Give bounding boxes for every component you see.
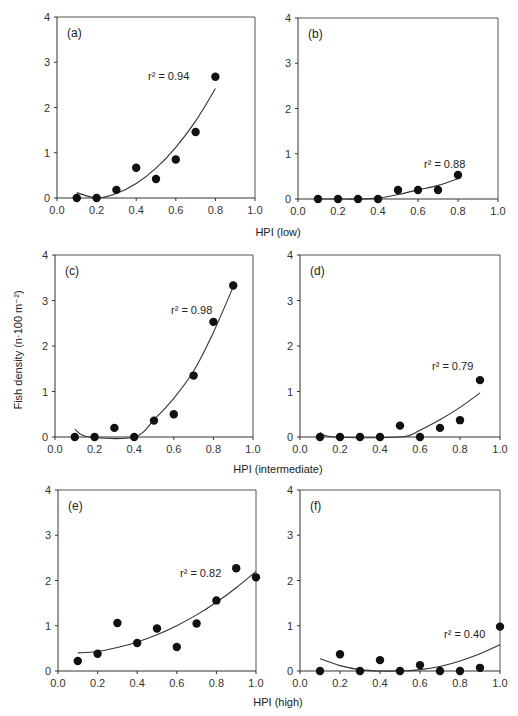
x-tick-label: 0.8: [452, 677, 467, 689]
y-tick-label: 2: [42, 340, 48, 352]
data-point: [374, 195, 382, 203]
data-point: [73, 194, 81, 202]
y-axis-label: Fish density (n·100 m⁻²): [12, 290, 24, 409]
data-point: [191, 128, 199, 136]
x-tick-label: 0.8: [208, 204, 223, 216]
y-tick-label: 3: [285, 57, 291, 69]
x-tick-label: 0.6: [410, 205, 425, 217]
fit-curve: [320, 393, 480, 438]
x-tick-label: 0.4: [372, 443, 387, 455]
x-tick-label: 0.4: [127, 443, 142, 455]
x-tick-label: 0.0: [50, 677, 65, 689]
data-point: [416, 661, 424, 669]
panel-f: 0.00.20.40.60.81.001234(f)r² = 0.40: [287, 484, 508, 689]
x-tick-label: 0.8: [206, 443, 221, 455]
x-tick-label: 0.2: [330, 205, 345, 217]
x-tick-label: 0.6: [412, 677, 427, 689]
y-tick-label: 3: [44, 56, 50, 68]
x-tick-label: 1.0: [247, 204, 262, 216]
y-tick-label: 2: [287, 340, 293, 352]
panel-b: 0.00.20.40.60.81.001234(b)r² = 0.88: [285, 12, 506, 217]
data-point: [133, 639, 141, 647]
x-tick-label: 0.6: [169, 677, 184, 689]
y-tick-label: 2: [44, 102, 50, 114]
y-tick-label: 1: [287, 386, 293, 398]
r-squared-label: r² = 0.40: [444, 628, 485, 640]
data-point: [454, 171, 462, 179]
y-tick-label: 1: [42, 386, 48, 398]
y-tick-label: 2: [287, 575, 293, 587]
data-point: [211, 73, 219, 81]
panel-e: 0.00.20.40.60.81.001234(e)r² = 0.82: [45, 484, 264, 689]
data-point: [336, 650, 344, 658]
y-tick-label: 1: [45, 620, 51, 632]
r-squared-label: r² = 0.82: [180, 567, 221, 579]
x-tick-label: 0.0: [49, 204, 64, 216]
y-tick-label: 0: [44, 192, 50, 204]
data-point: [396, 667, 404, 675]
data-point: [434, 186, 442, 194]
y-tick-label: 2: [285, 103, 291, 115]
r-squared-label: r² = 0.98: [171, 304, 212, 316]
data-point: [132, 163, 140, 171]
plot-frame: [58, 490, 256, 671]
x-tick-label: 0.4: [372, 677, 387, 689]
x-tick-label: 1.0: [490, 205, 505, 217]
data-point: [436, 424, 444, 432]
y-tick-label: 4: [287, 249, 293, 261]
data-point: [173, 643, 181, 651]
x-tick-label: 0.8: [450, 205, 465, 217]
x-axis-label-low: HPI (low): [255, 226, 300, 238]
data-point: [496, 622, 504, 630]
y-tick-label: 1: [285, 148, 291, 160]
fit-curve: [320, 645, 500, 671]
x-tick-label: 0.0: [47, 443, 62, 455]
x-tick-label: 0.4: [130, 677, 145, 689]
panel-d: 0.00.20.40.60.81.001234(d)r² = 0.79: [287, 249, 508, 455]
data-point: [172, 155, 180, 163]
plot-frame: [55, 255, 253, 437]
y-tick-label: 3: [287, 529, 293, 541]
data-point: [354, 195, 362, 203]
x-tick-label: 0.2: [332, 443, 347, 455]
x-tick-label: 0.4: [370, 205, 385, 217]
x-tick-label: 0.2: [332, 677, 347, 689]
data-point: [153, 624, 161, 632]
x-tick-label: 1.0: [492, 443, 507, 455]
data-point: [376, 433, 384, 441]
data-point: [112, 186, 120, 194]
data-point: [316, 667, 324, 675]
data-point: [74, 657, 82, 665]
x-axis-label-intermediate: HPI (intermediate): [233, 463, 322, 475]
x-tick-label: 0.2: [87, 443, 102, 455]
x-tick-label: 0.2: [89, 204, 104, 216]
data-point: [90, 433, 98, 441]
plot-frame: [298, 18, 498, 199]
data-point: [170, 410, 178, 418]
plot-frame: [57, 17, 255, 198]
x-tick-label: 1.0: [248, 677, 263, 689]
data-point: [110, 424, 118, 432]
data-point: [130, 433, 138, 441]
panel-label: (d): [310, 264, 325, 278]
x-tick-label: 0.6: [168, 204, 183, 216]
data-point: [71, 433, 79, 441]
x-tick-label: 1.0: [492, 677, 507, 689]
data-point: [93, 650, 101, 658]
y-tick-label: 0: [287, 665, 293, 677]
y-tick-label: 0: [287, 431, 293, 443]
y-tick-label: 0: [42, 431, 48, 443]
x-axis-label-high: HPI (high): [253, 696, 303, 708]
figure-canvas: 0.00.20.40.60.81.001234(a)r² = 0.94 0.00…: [0, 0, 518, 716]
data-point: [334, 195, 342, 203]
y-tick-label: 4: [287, 484, 293, 496]
panel-label: (b): [308, 27, 323, 41]
data-point: [476, 664, 484, 672]
panel-label: (e): [68, 499, 83, 513]
y-tick-label: 1: [287, 620, 293, 632]
y-tick-label: 4: [285, 12, 291, 24]
x-tick-label: 0.0: [292, 677, 307, 689]
data-point: [92, 194, 100, 202]
x-tick-label: 0.4: [129, 204, 144, 216]
y-tick-label: 4: [44, 11, 50, 23]
